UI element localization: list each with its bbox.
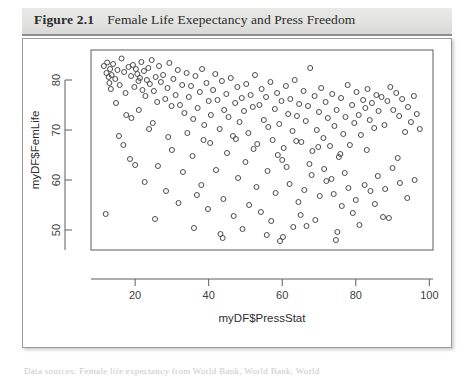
scatter-point [211,88,216,93]
scatter-point [251,147,256,152]
scatter-point [354,90,359,95]
scatter-point [345,83,350,88]
scatter-point [342,171,347,176]
scatter-point [339,96,344,101]
scatter-point [298,213,303,218]
scatter-point [264,95,269,100]
scatter-point [184,71,189,76]
scatter-point [137,76,142,81]
scatter-point [225,151,230,156]
scatter-point [258,210,263,215]
scatter-point [322,167,327,172]
scatter-point [362,183,367,188]
scatter-point [231,214,236,219]
scatter-point [147,127,152,132]
scatter-point [108,67,113,72]
scatter-point [356,113,361,118]
y-tick-label: 60 [50,174,62,186]
x-tick-label: 40 [203,289,215,301]
scatter-chart: 20406080100 50607080 myDF$PressStat myDF… [23,39,451,347]
scatter-point [214,168,219,173]
scatter-points [101,56,422,244]
scatter-point [264,233,269,238]
figure-caption-label: Female Life Exepectancy and Press Freedo… [107,12,355,27]
scatter-point [312,94,317,99]
scatter-point [153,75,158,80]
scatter-point [103,212,108,217]
scatter-point [228,76,233,81]
scatter-point [331,192,336,197]
scatter-point [180,83,185,88]
scatter-point [132,85,137,90]
scatter-point [175,68,180,73]
scatter-point [115,68,120,73]
scatter-point [343,115,348,120]
scatter-point [305,104,310,109]
scatter-point [281,146,286,151]
scatter-point [310,149,315,154]
scatter-point [308,66,313,71]
scatter-point [292,78,297,83]
scatter-point [246,131,251,136]
scatter-point [394,91,399,96]
scatter-point [197,90,202,95]
scatter-point [155,100,160,105]
scatter-point [180,170,185,175]
scatter-point [173,93,178,98]
scatter-point [390,166,395,171]
scatter-point [149,58,154,63]
scatter-point [336,155,341,160]
scatter-point [400,97,405,102]
scatter-point [208,141,213,146]
scatter-point [296,200,301,205]
scatter-point [185,131,190,136]
figure-card: Figure 2.1Female Life Exepectancy and Pr… [22,8,452,348]
scatter-point [280,158,285,163]
figure-title-band: Figure 2.1Female Life Exepectancy and Pr… [22,8,452,36]
scatter-point [239,96,244,101]
scatter-point [182,111,187,116]
scatter-point [335,230,340,235]
scatter-point [382,123,387,128]
scatter-point [364,148,369,153]
scatter-point [158,80,163,85]
scatter-point [146,66,151,71]
scatter-point [133,67,138,72]
scatter-point [346,186,351,191]
scatter-point [121,143,126,148]
scatter-point [230,134,235,139]
scatter-point [268,80,273,85]
scatter-point [189,84,194,89]
scatter-point [367,118,372,123]
x-axis: 20406080100 [91,279,439,301]
scatter-point [411,94,416,99]
scatter-point [122,70,127,75]
scatter-point [334,108,339,113]
scatter-point [386,216,391,221]
scatter-point [372,202,377,207]
scatter-point [133,163,138,168]
scatter-point [313,218,318,223]
scatter-point [270,138,275,143]
scatter-point [169,148,174,153]
scatter-point [190,154,195,159]
scatter-point [284,165,289,170]
figure-title: Figure 2.1Female Life Exepectancy and Pr… [34,12,355,28]
scatter-point [368,189,373,194]
scatter-point [152,217,157,222]
scatter-point [166,135,171,140]
scatter-point [136,79,141,84]
scatter-point [208,113,213,118]
scatter-point [220,236,225,241]
source-caption: Data sources: Female life expectancy fro… [24,366,464,378]
scatter-point [363,106,368,111]
scatter-point [107,81,112,86]
scatter-point [304,224,309,229]
scatter-point [206,99,211,104]
scatter-point [176,201,181,206]
scatter-point [388,85,393,90]
scatter-point [169,104,174,109]
scatter-point [369,101,374,106]
scatter-point [266,125,271,130]
scatter-point [376,109,381,114]
